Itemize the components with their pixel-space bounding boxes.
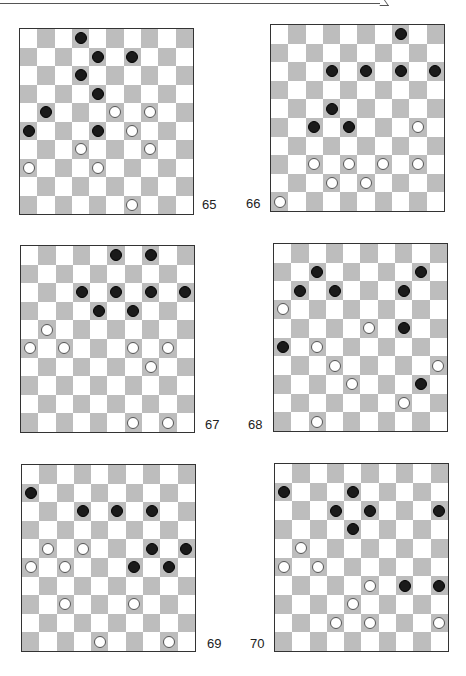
dark-square — [274, 300, 291, 319]
white-piece-icon — [311, 341, 323, 353]
dark-square — [72, 140, 89, 159]
dark-square — [55, 159, 72, 178]
dark-square — [292, 576, 309, 595]
dark-square — [275, 632, 292, 651]
dark-square — [343, 375, 360, 394]
light-square — [143, 595, 160, 614]
dark-square — [89, 85, 106, 104]
dark-square — [396, 576, 413, 595]
light-square — [20, 66, 37, 85]
light-square — [360, 375, 377, 394]
light-square — [431, 632, 448, 651]
light-square — [89, 29, 106, 48]
dark-square — [55, 85, 72, 104]
black-piece-icon — [395, 65, 407, 77]
light-square — [124, 103, 141, 122]
black-piece-icon — [347, 486, 359, 498]
dark-square — [176, 140, 193, 159]
light-square — [310, 501, 327, 520]
dark-square — [124, 159, 141, 178]
dark-square — [178, 577, 195, 596]
dark-square — [106, 66, 123, 85]
light-square — [91, 502, 108, 521]
dark-square — [379, 483, 396, 502]
light-square — [326, 263, 343, 282]
light-square — [142, 302, 159, 321]
light-square — [413, 501, 430, 520]
light-square — [143, 484, 160, 503]
light-square — [326, 375, 343, 394]
black-piece-icon — [111, 505, 123, 517]
light-square — [309, 394, 326, 413]
light-square — [56, 283, 73, 302]
light-square — [378, 319, 395, 338]
dark-square — [379, 558, 396, 577]
white-piece-icon — [346, 378, 358, 390]
light-square — [431, 520, 448, 539]
dark-square — [57, 595, 74, 614]
white-piece-icon — [412, 158, 424, 170]
dark-square — [409, 81, 426, 100]
dark-square — [74, 614, 91, 633]
dark-square — [90, 265, 107, 284]
light-square — [274, 356, 291, 375]
light-square — [39, 484, 56, 503]
light-square — [73, 413, 90, 432]
light-square — [431, 558, 448, 577]
dark-square — [126, 632, 143, 651]
light-square — [124, 66, 141, 85]
light-square — [361, 595, 378, 614]
light-square — [292, 558, 309, 577]
light-square — [413, 614, 430, 633]
dark-square — [22, 595, 39, 614]
dark-square — [108, 577, 125, 596]
light-square — [274, 244, 291, 263]
light-square — [412, 281, 429, 300]
dark-square — [37, 140, 54, 159]
light-square — [57, 614, 74, 633]
black-piece-icon — [179, 286, 191, 298]
black-piece-icon — [277, 341, 289, 353]
light-square — [360, 412, 377, 431]
light-square — [39, 521, 56, 540]
black-piece-icon — [364, 505, 376, 517]
white-piece-icon — [330, 617, 342, 629]
dark-square — [378, 412, 395, 431]
dark-square — [271, 192, 288, 211]
dark-square — [323, 62, 340, 81]
light-square — [306, 25, 323, 44]
light-square — [409, 137, 426, 156]
light-square — [379, 464, 396, 483]
dark-square — [21, 265, 38, 284]
white-piece-icon — [58, 342, 70, 354]
light-square — [288, 44, 305, 63]
dark-square — [143, 465, 160, 484]
dark-square — [143, 502, 160, 521]
light-square — [143, 632, 160, 651]
light-square — [291, 412, 308, 431]
dark-square — [55, 48, 72, 67]
light-square — [160, 539, 177, 558]
dark-square — [72, 103, 89, 122]
dark-square — [357, 174, 374, 193]
black-piece-icon — [395, 28, 407, 40]
light-square — [57, 502, 74, 521]
light-square — [412, 394, 429, 413]
dark-square — [39, 577, 56, 596]
light-square — [392, 118, 409, 137]
light-square — [178, 558, 195, 577]
light-square — [378, 281, 395, 300]
dark-square — [427, 99, 444, 118]
board-70 — [274, 463, 449, 652]
dark-square — [340, 118, 357, 137]
dark-square — [90, 376, 107, 395]
light-square — [306, 62, 323, 81]
light-square — [126, 614, 143, 633]
light-square — [21, 395, 38, 414]
dark-square — [72, 66, 89, 85]
dark-square — [141, 140, 158, 159]
dark-square — [55, 196, 72, 215]
dark-square — [125, 376, 142, 395]
dark-square — [288, 99, 305, 118]
dark-square — [57, 521, 74, 540]
